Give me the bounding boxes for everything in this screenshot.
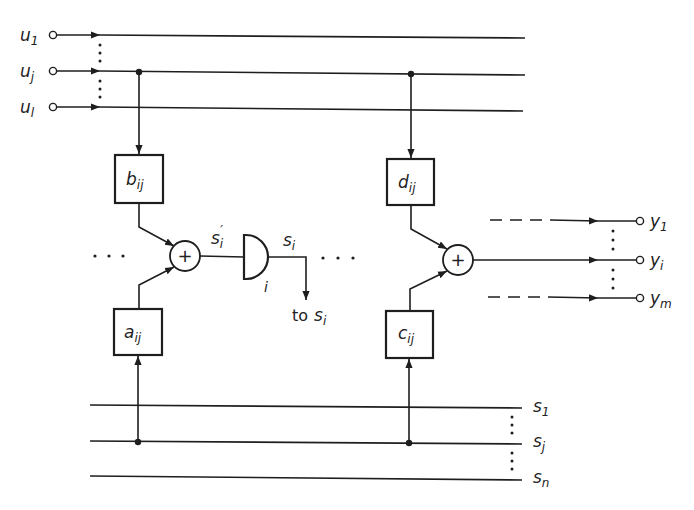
output-terminal-icon	[636, 256, 643, 263]
delay-input-label: si′	[211, 223, 224, 251]
output-label-y1: y1	[649, 211, 668, 234]
output-line-y1: y1	[490, 211, 668, 234]
input-label-u1: u1	[20, 25, 38, 48]
input-bus: u1 uj ul	[20, 25, 525, 120]
horizontal-ellipsis-icon	[321, 256, 354, 259]
state-label-sn: sn	[533, 467, 549, 490]
block-c-ij: cij	[386, 311, 433, 358]
state-update-stage: bij + aij si′ i si	[93, 69, 354, 445]
horizontal-ellipsis-icon	[93, 254, 124, 257]
output-label-ym: ym	[649, 288, 672, 311]
input-terminal-icon	[49, 67, 56, 74]
input-label-ul: ul	[20, 97, 35, 120]
state-label-sj: sj	[533, 431, 546, 454]
input-line-ul: ul	[20, 97, 523, 120]
input-terminal-icon	[49, 103, 56, 110]
block-d-ij: dij	[387, 159, 434, 205]
output-label-yi: yi	[649, 250, 664, 273]
adder-left: +	[170, 241, 200, 271]
output-terminal-icon	[636, 217, 643, 224]
input-terminal-icon	[49, 31, 56, 38]
output-line-ym: ym	[488, 288, 672, 311]
state-line-sn	[90, 476, 522, 480]
output-terminal-icon	[636, 294, 643, 301]
output-line-yi: yi	[473, 250, 664, 273]
state-line-sj	[90, 441, 522, 444]
feedback-label: tosi	[292, 305, 327, 328]
plus-icon: +	[177, 245, 192, 266]
state-vertical-ellipsis-icon	[511, 416, 514, 471]
linear-circuit-diagram: u1 uj ul s1 sj	[0, 0, 694, 510]
state-line-s1	[90, 405, 522, 408]
delay-element: i	[244, 235, 268, 295]
input-label-uj: uj	[20, 61, 35, 84]
plus-icon: +	[450, 249, 465, 270]
delay-output-label: si	[283, 230, 296, 253]
block-b-ij: bij	[115, 155, 163, 203]
state-bus: s1 sj sn	[90, 396, 550, 490]
state-label-s1: s1	[533, 396, 550, 419]
delay-index-label: i	[264, 279, 268, 295]
block-a-ij: aij	[114, 309, 162, 355]
output-stage: dij + cij y1 yi	[386, 71, 672, 446]
input-line-uj: uj	[20, 61, 525, 84]
input-line-u1: u1	[20, 25, 525, 48]
adder-right: +	[443, 245, 473, 275]
